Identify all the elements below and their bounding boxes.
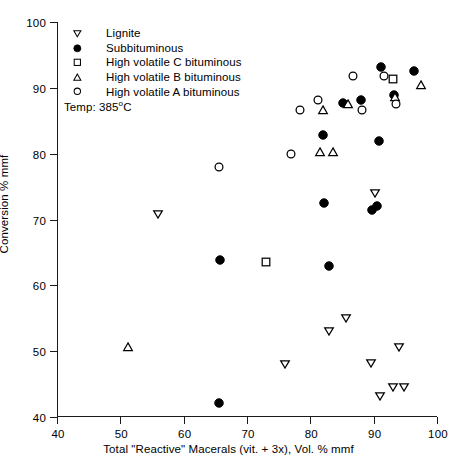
legend-item-high-volatile-c-bituminous: High volatile C bituminous bbox=[66, 55, 281, 70]
y-tick: 70 bbox=[50, 220, 57, 221]
y-axis-label: Conversion % mmf bbox=[0, 34, 10, 374]
x-tick: 100 bbox=[437, 417, 438, 424]
legend-label: High volatile B bituminous bbox=[106, 71, 241, 83]
data-point bbox=[371, 199, 384, 212]
y-tick: 40 bbox=[50, 417, 57, 418]
data-point bbox=[323, 325, 336, 338]
legend-item-lignite: Lignite bbox=[66, 26, 281, 41]
data-point bbox=[152, 207, 165, 220]
legend-item-high-volatile-a-bituminous: High volatile A bituminous bbox=[66, 84, 281, 99]
data-point bbox=[377, 69, 390, 82]
temperature-unit: C bbox=[123, 101, 131, 113]
data-point bbox=[373, 134, 386, 147]
data-point bbox=[279, 357, 292, 370]
data-point bbox=[317, 129, 330, 142]
circle-icon bbox=[66, 43, 88, 54]
data-point bbox=[327, 145, 340, 158]
y-tick-label: 90 bbox=[33, 83, 46, 95]
data-point bbox=[121, 341, 134, 354]
legend-item-subbituminous: Subbituminous bbox=[66, 41, 281, 56]
legend-label: Lignite bbox=[106, 27, 141, 39]
y-tick-label: 60 bbox=[33, 280, 46, 292]
x-tick: 50 bbox=[120, 417, 121, 424]
data-point bbox=[260, 256, 273, 269]
x-tick: 40 bbox=[57, 417, 58, 424]
temperature-annotation: Temp: 385oC bbox=[64, 99, 132, 113]
x-tick-label: 50 bbox=[115, 428, 128, 440]
y-tick: 90 bbox=[50, 88, 57, 89]
legend-label: High volatile A bituminous bbox=[106, 86, 240, 98]
y-tick: 80 bbox=[50, 154, 57, 155]
y-tick-label: 80 bbox=[33, 149, 46, 161]
x-tick: 90 bbox=[374, 417, 375, 424]
square-icon bbox=[66, 57, 88, 68]
data-point bbox=[374, 389, 387, 402]
data-point bbox=[340, 312, 353, 325]
y-tick-label: 100 bbox=[26, 17, 46, 29]
data-point bbox=[213, 160, 226, 173]
data-point bbox=[347, 69, 360, 82]
chart-legend: LigniteSubbituminousHigh volatile C bitu… bbox=[66, 26, 281, 99]
data-point bbox=[311, 94, 324, 107]
data-point bbox=[356, 104, 369, 117]
x-tick-label: 40 bbox=[51, 428, 64, 440]
x-axis-label: Total "Reactive" Macerals (vit. + 3x), V… bbox=[0, 443, 457, 455]
data-point bbox=[318, 197, 331, 210]
y-tick-label: 40 bbox=[33, 412, 46, 424]
data-point bbox=[313, 146, 326, 159]
data-point bbox=[285, 147, 298, 160]
data-point bbox=[414, 79, 427, 92]
legend-label: High volatile C bituminous bbox=[106, 56, 242, 68]
y-tick: 50 bbox=[50, 351, 57, 352]
x-tick: 60 bbox=[184, 417, 185, 424]
y-tick: 100 bbox=[50, 22, 57, 23]
temperature-text: Temp: 385 bbox=[64, 101, 119, 113]
x-tick-label: 70 bbox=[241, 428, 254, 440]
y-tick-label: 70 bbox=[33, 215, 46, 227]
data-point bbox=[408, 64, 421, 77]
x-tick-label: 100 bbox=[428, 428, 448, 440]
legend-item-high-volatile-b-bituminous: High volatile B bituminous bbox=[66, 70, 281, 85]
data-point bbox=[323, 260, 336, 273]
data-point bbox=[365, 357, 378, 370]
y-tick-label: 50 bbox=[33, 346, 46, 358]
x-tick-label: 80 bbox=[305, 428, 318, 440]
down-triangle-icon bbox=[66, 28, 88, 39]
y-tick: 60 bbox=[50, 285, 57, 286]
data-point bbox=[398, 381, 411, 394]
data-point bbox=[342, 98, 355, 111]
x-tick: 80 bbox=[310, 417, 311, 424]
x-tick-label: 60 bbox=[178, 428, 191, 440]
data-point bbox=[390, 98, 403, 111]
x-tick: 70 bbox=[247, 417, 248, 424]
data-point bbox=[393, 341, 406, 354]
data-point bbox=[294, 104, 307, 117]
circle-icon bbox=[66, 86, 88, 97]
x-tick-label: 90 bbox=[368, 428, 381, 440]
data-point bbox=[212, 396, 225, 409]
data-point bbox=[368, 187, 381, 200]
legend-label: Subbituminous bbox=[106, 42, 183, 54]
scatter-chart-figure: 405060708090100 405060708090100 Conversi… bbox=[0, 0, 457, 468]
data-point bbox=[214, 253, 227, 266]
up-triangle-icon bbox=[66, 72, 88, 83]
